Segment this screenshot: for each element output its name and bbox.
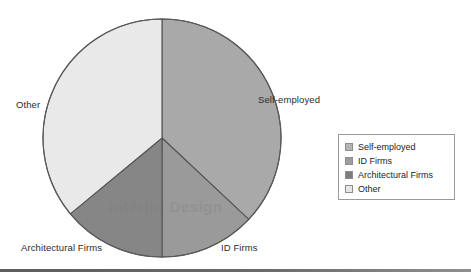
- legend-swatch-icon: [345, 185, 353, 193]
- slice-label-other: Other: [16, 99, 40, 110]
- pie-slices: [43, 19, 281, 257]
- slice-label-architectural-firms: Architectural Firms: [21, 242, 102, 253]
- legend-item[interactable]: Other: [345, 182, 454, 196]
- bottom-divider: [0, 269, 471, 272]
- legend-item-label: Self-employed: [358, 142, 416, 152]
- pie-svg: [42, 18, 282, 258]
- legend-item[interactable]: Self-employed: [345, 140, 454, 154]
- legend-swatch-icon: [345, 143, 353, 151]
- legend-item-label: Other: [358, 184, 381, 194]
- legend-item-label: Architectural Firms: [358, 170, 433, 180]
- legend-item-label: ID Firms: [358, 156, 392, 166]
- slice-label-self-employed: Self-employed: [258, 94, 320, 105]
- legend-item[interactable]: Architectural Firms: [345, 168, 454, 182]
- slice-label-id-firms: ID Firms: [221, 242, 258, 253]
- chart-legend: Self-employed ID Firms Architectural Fir…: [338, 134, 455, 200]
- legend-item[interactable]: ID Firms: [345, 154, 454, 168]
- legend-swatch-icon: [345, 157, 353, 165]
- pie-chart: [42, 18, 282, 258]
- legend-swatch-icon: [345, 171, 353, 179]
- chart-canvas: Interior Design Other Self-employed ID F…: [0, 0, 471, 277]
